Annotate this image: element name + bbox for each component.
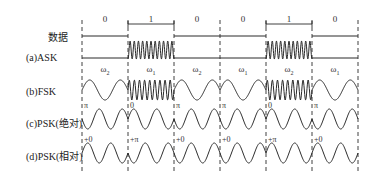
phase-label: +0: [222, 135, 231, 144]
phase-label: 0: [130, 101, 134, 110]
bit-label: 1: [149, 14, 154, 24]
phase-label: +π: [268, 135, 277, 144]
fsk-frequency-label: ω1: [331, 64, 340, 76]
fsk-frequency-label: ω2: [285, 64, 294, 76]
fsk-frequency-label: ω1: [239, 64, 248, 76]
phase-label: +0: [314, 135, 323, 144]
phase-label: π: [222, 101, 226, 110]
fsk-frequency-label: ω2: [101, 64, 110, 76]
bit-label: 0: [333, 14, 338, 24]
bit-label: 1: [287, 14, 292, 24]
row-label-fsk: (b)FSK: [26, 86, 56, 97]
phase-label: +0: [84, 135, 93, 144]
phase-label: 0: [268, 101, 272, 110]
phase-label: π: [176, 101, 180, 110]
bit-label: 0: [195, 14, 200, 24]
phase-label: π: [314, 101, 318, 110]
row-label-data: 数据: [48, 29, 68, 44]
bit-label: 0: [241, 14, 246, 24]
row-label-ask: (a)ASK: [26, 52, 57, 63]
row-label-psk-relative: (d)PSK(相对): [26, 148, 83, 163]
fsk-frequency-label: ω1: [147, 64, 156, 76]
phase-label: +π: [130, 135, 139, 144]
row-label-psk-absolute: (c)PSK(绝对): [26, 115, 82, 130]
bit-boundary-lines: [82, 20, 358, 172]
bit-label: 0: [103, 14, 108, 24]
phase-label: π: [84, 101, 88, 110]
phase-label: +0: [176, 135, 185, 144]
fsk-frequency-label: ω2: [193, 64, 202, 76]
